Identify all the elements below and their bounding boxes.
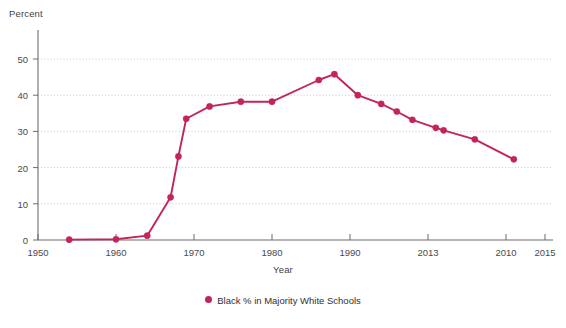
x-tick-label: 2015 xyxy=(515,247,566,258)
data-point xyxy=(144,233,150,239)
chart-legend: Black % in Majority White Schools xyxy=(0,294,566,306)
axis-lines-group xyxy=(38,30,553,240)
y-tick-label: 30 xyxy=(2,126,28,137)
data-point xyxy=(175,153,181,159)
series-line-group xyxy=(69,74,514,239)
series-line xyxy=(69,74,514,239)
gridlines-group xyxy=(38,59,553,204)
x-tick-label: 1990 xyxy=(320,247,380,258)
y-tick-label: 0 xyxy=(2,235,28,246)
y-tick-label: 50 xyxy=(2,54,28,65)
data-point xyxy=(207,103,213,109)
legend-entry[interactable]: Black % in Majority White Schools xyxy=(205,294,361,306)
plot-area xyxy=(0,0,566,328)
data-point xyxy=(183,116,189,122)
data-point xyxy=(316,77,322,83)
x-tick-label: 1960 xyxy=(86,247,146,258)
x-tick-label: 2013 xyxy=(398,247,458,258)
x-tick-label: 1980 xyxy=(242,247,302,258)
data-point xyxy=(394,108,400,114)
data-point xyxy=(433,125,439,131)
data-point xyxy=(168,194,174,200)
y-tick-label: 10 xyxy=(2,198,28,209)
data-point xyxy=(511,156,517,162)
x-tick-label: 1970 xyxy=(164,247,224,258)
legend-label: Black % in Majority White Schools xyxy=(217,295,361,306)
y-tick-label: 40 xyxy=(2,90,28,101)
data-point xyxy=(409,117,415,123)
data-point xyxy=(355,92,361,98)
data-point xyxy=(269,99,275,105)
data-point xyxy=(66,237,72,243)
data-point xyxy=(331,71,337,77)
y-axis-title: Percent xyxy=(9,8,43,19)
data-point xyxy=(378,101,384,107)
data-point xyxy=(441,127,447,133)
data-point xyxy=(238,99,244,105)
legend-marker-icon xyxy=(205,296,212,303)
x-tick-label: 1950 xyxy=(8,247,68,258)
series-point-group xyxy=(66,71,517,243)
x-axis-title: Year xyxy=(0,264,566,275)
y-tick-label: 20 xyxy=(2,162,28,173)
chart-container: Percent Year 01020304050 195019601970198… xyxy=(0,0,566,328)
data-point xyxy=(113,236,119,242)
tick-marks-group xyxy=(33,59,545,240)
data-point xyxy=(472,136,478,142)
